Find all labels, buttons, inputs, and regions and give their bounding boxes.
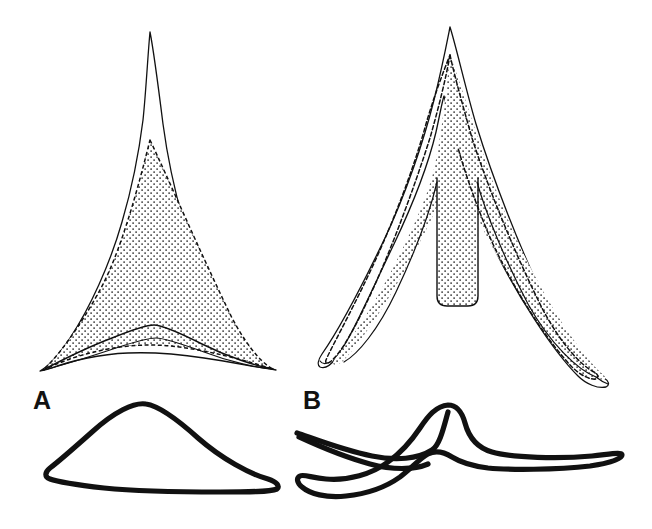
figure-container: A B <box>0 0 652 529</box>
panel-label-a: A <box>33 388 51 413</box>
panel-b-profile-view <box>297 405 622 497</box>
panel-label-b: B <box>303 388 321 413</box>
panel-a-plan-view <box>20 32 300 390</box>
panel-a-profile-view <box>46 404 278 492</box>
panel-b-stipple-fill <box>320 40 620 390</box>
figure-illustration <box>0 0 652 529</box>
panel-b-plan-view <box>318 27 620 390</box>
panel-a-profile-outline <box>46 404 278 492</box>
